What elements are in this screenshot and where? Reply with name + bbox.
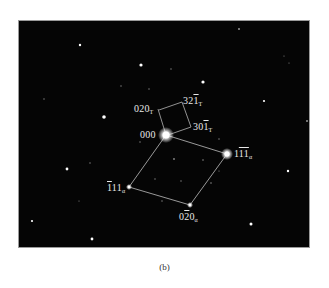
- figure-caption: (b): [0, 262, 329, 272]
- label-30-1-twin: 301T: [193, 122, 212, 132]
- label-32-1-twin: 321T: [183, 96, 202, 106]
- diffraction-spots: [19, 21, 310, 248]
- diffraction-pattern-figure: 020T 321T 301T 000 111α 111α 020α: [18, 20, 310, 248]
- label-1-1-1-alpha: 111α: [234, 149, 252, 159]
- alpha-cell-lines: [129, 135, 227, 205]
- label-0m20-alpha: 020α: [179, 212, 198, 222]
- label-m111-alpha: 111α: [107, 183, 125, 193]
- label-origin-000: 000: [140, 130, 156, 140]
- label-020-twin: 020T: [134, 104, 153, 114]
